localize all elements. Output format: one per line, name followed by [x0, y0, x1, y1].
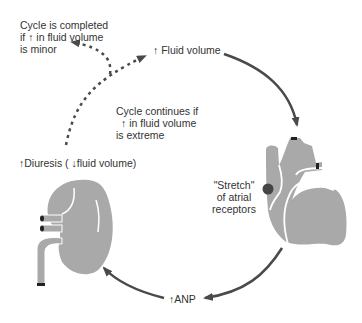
cycle-completed-line-1: Cycle is completed — [20, 19, 108, 31]
cycle-continues-line-2: ↑ in fluid volume — [116, 117, 198, 129]
stretch-line-2: of atrial — [208, 191, 260, 203]
cycle-completed-line-2: if ↑ in fluid volume — [20, 31, 108, 43]
stretch-line-1: "Stretch" — [208, 179, 260, 191]
fluid-volume-label: ↑ Fluid volume — [153, 44, 221, 56]
cycle-continues-line-1: Cycle continues if — [116, 105, 198, 117]
stretch-line-3: receptors — [208, 203, 260, 215]
heart-illustration — [263, 137, 347, 245]
arrow-heart-to-anp — [205, 248, 282, 298]
cycle-continues-label: Cycle continues if ↑ in fluid volume is … — [116, 105, 198, 141]
cycle-completed-line-3: is minor — [20, 43, 108, 55]
diuresis-label: ↑Diuresis ( ↓fluid volume) — [19, 157, 136, 169]
kidney-illustration — [37, 180, 113, 286]
anp-label: ↑ANP — [169, 293, 196, 305]
cycle-continues-line-3: is extreme — [116, 129, 198, 141]
stretch-receptors-label: "Stretch" of atrial receptors — [208, 179, 260, 215]
arrow-volume-to-heart — [224, 54, 297, 125]
arrow-anp-to-kidney — [104, 268, 164, 298]
cycle-completed-label: Cycle is completed if ↑ in fluid volume … — [20, 19, 108, 55]
